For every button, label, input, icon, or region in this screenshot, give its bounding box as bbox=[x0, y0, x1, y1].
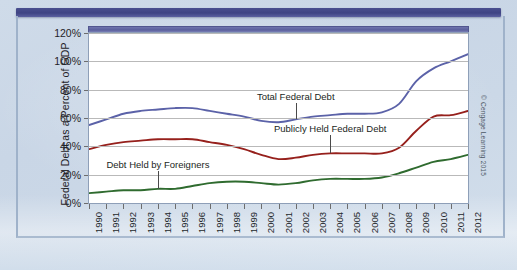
x-tick-mark-2000 bbox=[261, 204, 262, 209]
x-tick-mark-2007 bbox=[382, 204, 383, 209]
x-tick-label-2002: 2002 bbox=[300, 212, 311, 233]
annotation-publicly-held-federal-debt: Publicly Held Federal Debt bbox=[274, 123, 386, 134]
gridline-100 bbox=[89, 61, 468, 62]
x-tick-label-1998: 1998 bbox=[231, 212, 242, 233]
annotation-debt-held-by-foreigners: Debt Held by Foreigners bbox=[106, 159, 209, 170]
x-tick-label-2003: 2003 bbox=[317, 212, 328, 233]
x-tick-mark-1994 bbox=[158, 204, 159, 209]
x-tick-label-2009: 2009 bbox=[420, 212, 431, 233]
gridline-60 bbox=[89, 118, 468, 119]
x-tick-mark-2002 bbox=[296, 204, 297, 209]
x-tick-mark-1997 bbox=[210, 204, 211, 209]
x-tick-mark-2011 bbox=[451, 204, 452, 209]
x-tick-label-2010: 2010 bbox=[438, 212, 449, 233]
x-tick-label-2000: 2000 bbox=[265, 212, 276, 233]
x-tick-label-1999: 1999 bbox=[248, 212, 259, 233]
gridline-120 bbox=[89, 33, 468, 34]
x-tick-mark-1991 bbox=[106, 204, 107, 209]
x-tick-label-1997: 1997 bbox=[214, 212, 225, 233]
x-tick-mark-2005 bbox=[347, 204, 348, 209]
x-tick-mark-1992 bbox=[123, 204, 124, 209]
x-tick-mark-2009 bbox=[416, 204, 417, 209]
x-tick-mark-2010 bbox=[434, 204, 435, 209]
x-tick-mark-2006 bbox=[365, 204, 366, 209]
x-tick-label-2012: 2012 bbox=[472, 212, 483, 233]
x-tick-mark-2001 bbox=[279, 204, 280, 209]
x-tick-mark-1995 bbox=[175, 204, 176, 209]
x-tick-mark-2008 bbox=[399, 204, 400, 209]
plot-area bbox=[88, 32, 469, 204]
gridline-40 bbox=[89, 146, 468, 147]
annotation-total-federal-debt: Total Federal Debt bbox=[257, 91, 335, 102]
x-tick-label-1995: 1995 bbox=[179, 212, 190, 233]
x-tick-mark-2004 bbox=[330, 204, 331, 209]
x-tick-mark-2003 bbox=[313, 204, 314, 209]
x-tick-mark-1998 bbox=[227, 204, 228, 209]
x-tick-label-1994: 1994 bbox=[162, 212, 173, 233]
x-tick-label-1992: 1992 bbox=[127, 212, 138, 233]
x-tick-label-1993: 1993 bbox=[145, 212, 156, 233]
x-tick-label-2011: 2011 bbox=[455, 212, 466, 232]
x-tick-mark-2012 bbox=[468, 204, 469, 209]
x-tick-label-1990: 1990 bbox=[93, 212, 104, 233]
annotation-leader-total-federal-debt bbox=[296, 103, 297, 120]
figure-page: Federal Debt as a Percent of GDP 0%20%40… bbox=[0, 0, 517, 270]
x-tick-label-1996: 1996 bbox=[196, 212, 207, 233]
annotation-leader-publicly-held-federal-debt bbox=[330, 135, 331, 153]
x-tick-label-2006: 2006 bbox=[369, 212, 380, 233]
x-tick-label-2001: 2001 bbox=[283, 212, 294, 233]
annotation-leader-debt-held-by-foreigners bbox=[158, 171, 159, 189]
x-tick-label-2004: 2004 bbox=[334, 212, 345, 233]
x-tick-mark-1993 bbox=[141, 204, 142, 209]
x-tick-label-2005: 2005 bbox=[351, 212, 362, 233]
gridline-0 bbox=[89, 203, 468, 204]
x-tick-mark-1990 bbox=[89, 204, 90, 209]
gridline-20 bbox=[89, 175, 468, 176]
x-tick-label-2008: 2008 bbox=[403, 212, 414, 233]
x-tick-mark-1996 bbox=[192, 204, 193, 209]
copyright-credit: © Cengage Learning 2015 bbox=[480, 95, 487, 176]
x-tick-label-1991: 1991 bbox=[110, 212, 121, 233]
x-tick-mark-1999 bbox=[244, 204, 245, 209]
x-tick-label-2007: 2007 bbox=[386, 212, 397, 233]
